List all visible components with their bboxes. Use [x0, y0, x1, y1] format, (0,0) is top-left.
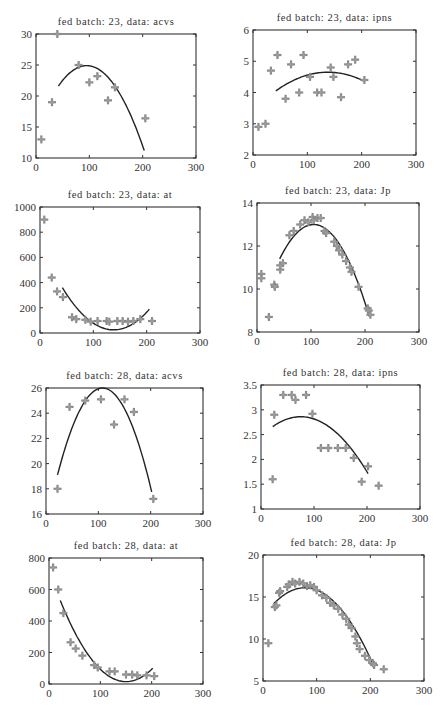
fit-curve: [274, 588, 374, 667]
chart-title: fed batch: 23, data: Jp: [285, 185, 391, 196]
chart-title: fed batch: 28, data: ipns: [283, 367, 399, 378]
figure-canvas: fed batch: 23, data: acvs010020030010152…: [0, 0, 444, 712]
chart-title: fed batch: 28, data: at: [74, 540, 178, 551]
chart-title: fed batch: 23, data: ipns: [277, 12, 393, 23]
data-point-star-icon: [300, 51, 308, 59]
data-point-star-icon: [121, 395, 129, 403]
data-point-star-icon: [59, 293, 67, 301]
y-tick-label: 20: [31, 458, 43, 470]
y-tick-label: 16: [31, 508, 43, 520]
data-point-star-icon: [276, 587, 284, 595]
x-tick-label: 0: [260, 684, 266, 696]
data-point-star-icon: [317, 444, 325, 452]
y-tick-label: 15: [248, 591, 260, 603]
data-point-star-icon: [358, 478, 366, 486]
data-point-star-icon: [130, 408, 138, 416]
y-tick-label: 12: [242, 240, 253, 252]
data-point-star-icon: [37, 135, 45, 143]
data-point-star-icon: [380, 665, 388, 673]
x-tick-label: 300: [192, 336, 209, 348]
data-point-star-icon: [273, 51, 281, 59]
y-tick-label: 10: [248, 633, 260, 645]
y-tick-label: 15: [21, 121, 33, 133]
x-tick-label: 100: [92, 687, 109, 699]
data-point-star-icon: [85, 78, 93, 86]
x-tick-label: 100: [308, 684, 325, 696]
data-point-star-icon: [148, 317, 156, 325]
x-tick-label: 100: [303, 335, 320, 347]
chart-title: fed batch: 28, data: Jp: [290, 537, 396, 548]
chart-panel-1: fed batch: 23, data: acvs010020030010152…: [21, 16, 205, 173]
x-tick-label: 300: [195, 517, 212, 529]
data-point-star-icon: [267, 67, 275, 75]
chart-panel-2: fed batch: 23, data: ipns010020030023456: [244, 12, 425, 170]
y-tick-label: 18: [31, 483, 43, 495]
x-tick-label: 200: [357, 335, 374, 347]
fit-curve: [58, 388, 152, 492]
data-point-star-icon: [270, 411, 278, 419]
y-tick-label: 800: [20, 226, 37, 238]
data-point-star-icon: [141, 114, 149, 122]
y-tick-label: 2: [244, 149, 250, 161]
chart-title: fed batch: 23, data: acvs: [58, 16, 175, 27]
y-tick-label: 22: [31, 432, 42, 444]
data-point-star-icon: [334, 444, 342, 452]
y-tick-label: 3.5: [243, 379, 257, 391]
data-point-star-icon: [287, 60, 295, 68]
data-point-star-icon: [72, 645, 80, 653]
chart-panel-5: fed batch: 28, data: acvs010020030016182…: [31, 370, 212, 529]
data-point-star-icon: [111, 667, 119, 675]
data-point-star-icon: [355, 283, 363, 291]
data-point-star-icon: [93, 72, 101, 80]
data-point-star-icon: [150, 672, 158, 680]
plot-frame: [40, 207, 200, 333]
data-point-star-icon: [149, 495, 157, 503]
x-tick-label: 300: [411, 335, 428, 347]
fit-curve: [276, 72, 365, 91]
y-tick-label: 25: [21, 59, 33, 71]
y-tick-label: 600: [29, 584, 46, 596]
y-tick-label: 5: [254, 675, 260, 687]
data-point-star-icon: [49, 563, 57, 571]
data-point-star-icon: [54, 586, 62, 594]
chart-title: fed batch: 23, data: at: [68, 189, 172, 200]
data-point-star-icon: [104, 96, 112, 104]
x-tick-label: 200: [138, 336, 155, 348]
y-tick-label: 2: [252, 453, 258, 465]
plot-frame: [49, 558, 203, 684]
y-tick-label: 1000: [14, 201, 37, 213]
data-point-star-icon: [143, 671, 151, 679]
y-tick-label: 2.5: [243, 429, 257, 441]
y-tick-label: 0: [31, 327, 37, 339]
x-tick-label: 100: [90, 517, 107, 529]
x-tick-label: 0: [258, 512, 264, 524]
y-tick-label: 200: [20, 302, 37, 314]
x-tick-label: 0: [37, 336, 43, 348]
y-tick-label: 5: [244, 55, 250, 67]
data-point-star-icon: [279, 391, 287, 399]
y-tick-label: 14: [242, 197, 254, 209]
data-point-star-icon: [48, 274, 56, 282]
data-point-star-icon: [295, 89, 303, 97]
data-point-star-icon: [375, 482, 383, 490]
y-tick-label: 10: [242, 283, 254, 295]
data-point-star-icon: [360, 76, 368, 84]
data-point-star-icon: [53, 30, 61, 38]
y-tick-label: 400: [20, 277, 37, 289]
y-tick-label: 24: [31, 407, 43, 419]
chart-panel-4: fed batch: 23, data: Jp01002003008101214: [242, 185, 428, 347]
x-tick-label: 0: [250, 158, 256, 170]
data-point-star-icon: [324, 444, 332, 452]
y-tick-label: 10: [21, 152, 33, 164]
fit-curve: [280, 225, 370, 317]
y-tick-label: 20: [21, 90, 33, 102]
data-point-star-icon: [329, 73, 337, 81]
data-point-star-icon: [97, 395, 105, 403]
x-tick-label: 300: [408, 158, 425, 170]
data-point-star-icon: [40, 216, 48, 224]
x-tick-label: 200: [362, 684, 379, 696]
y-tick-label: 20: [248, 549, 260, 561]
x-tick-label: 200: [353, 158, 370, 170]
y-tick-label: 8: [248, 326, 254, 338]
x-tick-label: 200: [134, 161, 151, 173]
